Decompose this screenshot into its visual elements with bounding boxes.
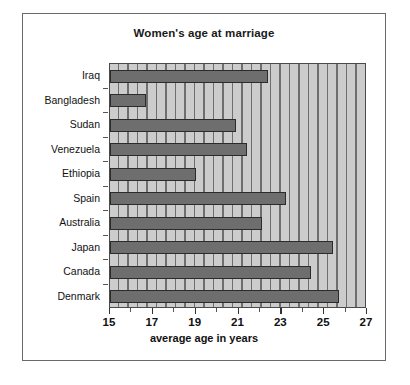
bar-iraq — [110, 70, 365, 83]
bar-canada — [110, 266, 365, 279]
x-axis-major-tick — [238, 308, 239, 314]
bar-rect — [110, 290, 339, 303]
y-axis-label-spain: Spain — [73, 192, 100, 204]
y-axis-tick — [103, 88, 108, 89]
bar-rect — [110, 266, 311, 279]
x-axis-tick-label-23: 23 — [274, 316, 287, 328]
y-axis-category-labels: IraqBangladeshSudanVenezuelaEthiopiaSpai… — [23, 63, 105, 308]
y-axis-label-iraq: Iraq — [82, 69, 100, 81]
y-axis-tick — [103, 161, 108, 162]
x-axis-major-tick — [109, 308, 110, 314]
x-axis-major-tick — [323, 308, 324, 314]
bar-spain — [110, 192, 365, 205]
bar-rect — [110, 192, 286, 205]
x-axis-minor-tick — [259, 308, 260, 312]
x-axis-tick-label-15: 15 — [103, 316, 116, 328]
y-axis-tick — [103, 284, 108, 285]
chart-figure: Women's age at marriage IraqBangladeshSu… — [22, 13, 386, 361]
chart-title: Women's age at marriage — [23, 27, 385, 39]
bar-rect — [110, 143, 247, 156]
bars-layer — [110, 64, 365, 307]
x-axis-tick-label-19: 19 — [188, 316, 201, 328]
y-axis-label-bangladesh: Bangladesh — [45, 94, 100, 106]
x-axis-major-tick — [152, 308, 153, 314]
y-axis-label-venezuela: Venezuela — [51, 143, 100, 155]
bar-japan — [110, 241, 365, 254]
bar-sudan — [110, 119, 365, 132]
y-axis-tick — [103, 210, 108, 211]
y-axis-label-sudan: Sudan — [70, 118, 100, 130]
bar-bangladesh — [110, 94, 365, 107]
bar-ethiopia — [110, 168, 365, 181]
x-axis-major-tick — [280, 308, 281, 314]
bar-rect — [110, 217, 262, 230]
x-axis-major-tick — [366, 308, 367, 314]
x-axis-minor-tick — [173, 308, 174, 312]
bar-venezuela — [110, 143, 365, 156]
y-axis-label-ethiopia: Ethiopia — [62, 167, 100, 179]
x-axis-title: average age in years — [23, 332, 385, 344]
y-axis-tick — [103, 137, 108, 138]
x-axis-tick-label-25: 25 — [317, 316, 330, 328]
x-axis-minor-tick — [345, 308, 346, 312]
bar-rect — [110, 168, 196, 181]
bar-rect — [110, 241, 333, 254]
y-axis-tick — [103, 235, 108, 236]
bar-rect — [110, 94, 146, 107]
bar-rect — [110, 70, 268, 83]
x-axis-tick-label-17: 17 — [145, 316, 158, 328]
plot-area — [109, 63, 366, 308]
x-axis-tick-label-21: 21 — [231, 316, 244, 328]
y-axis-tick — [103, 259, 108, 260]
y-axis-label-canada: Canada — [63, 265, 100, 277]
y-axis-label-denmark: Denmark — [57, 290, 100, 302]
bar-rect — [110, 119, 236, 132]
y-axis-label-australia: Australia — [59, 216, 100, 228]
x-axis-major-tick — [195, 308, 196, 314]
x-axis-minor-tick — [216, 308, 217, 312]
x-axis-minor-tick — [302, 308, 303, 312]
bar-denmark — [110, 290, 365, 303]
x-axis-tick-label-27: 27 — [360, 316, 373, 328]
y-axis-tick — [103, 112, 108, 113]
bar-australia — [110, 217, 365, 230]
y-axis-tick — [103, 186, 108, 187]
y-axis-label-japan: Japan — [71, 241, 100, 253]
x-axis-minor-tick — [130, 308, 131, 312]
